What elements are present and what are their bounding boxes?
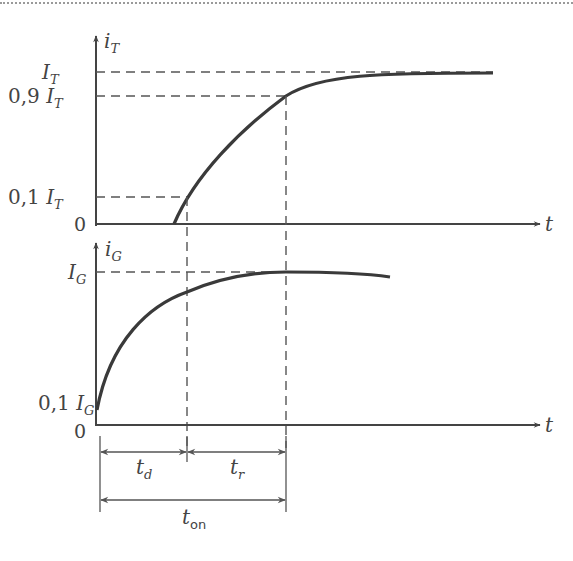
upper-t-axis-label: t [545, 212, 554, 236]
time-intervals [100, 436, 286, 512]
label-IT: IT [41, 60, 60, 87]
iG-axis-label: iG [105, 237, 122, 264]
ton-label: ton [182, 505, 206, 532]
lower-plot [95, 243, 540, 426]
label-upper-zero: 0 [74, 213, 86, 235]
label-09IT: 0,9 IT [8, 84, 64, 111]
iG-curve [97, 272, 390, 410]
label-IG: IG [67, 260, 86, 287]
label-01IG: 0,1 IG [38, 391, 94, 418]
upper-plot [95, 36, 540, 226]
iT-axis-label: iT [104, 29, 120, 56]
tr-label: tr [230, 455, 245, 482]
turn-on-diagram: iT IT 0,9 IT 0,1 IT 0 t iG IG 0,1 IG 0 t… [0, 0, 573, 561]
lower-t-axis-label: t [545, 413, 554, 437]
label-lower-zero: 0 [74, 420, 86, 442]
td-label: td [136, 455, 152, 482]
label-01IT: 0,1 IT [8, 185, 64, 212]
